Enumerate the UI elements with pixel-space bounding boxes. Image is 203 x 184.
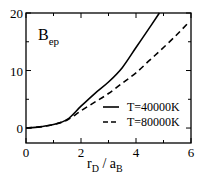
annotation-label: Bep [38, 26, 60, 47]
x-axis-label: rD / aB [87, 156, 123, 174]
x-tick-label: 0 [23, 145, 30, 160]
x-tick-label: 6 [188, 145, 195, 160]
legend: T=40000KT=80000K [103, 100, 180, 129]
legend-label: T=40000K [127, 100, 180, 114]
x-tick-label: 2 [78, 145, 85, 160]
chart: 024601020 Bep T=40000KT=80000K rD / aB [0, 0, 203, 184]
legend-label: T=80000K [127, 115, 180, 129]
x-tick-label: 4 [133, 145, 140, 160]
y-tick-label: 20 [10, 6, 23, 21]
y-tick-label: 10 [10, 64, 23, 79]
y-tick-label: 0 [17, 121, 24, 136]
